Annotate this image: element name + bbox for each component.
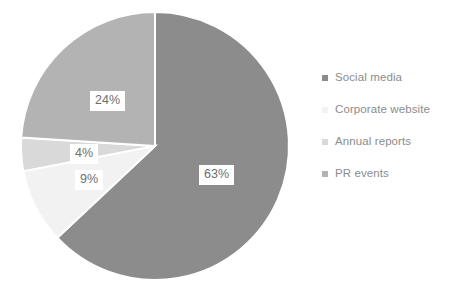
chart-legend: Social mediaCorporate websiteAnnual repo… [322,62,448,190]
legend-swatch-icon [322,75,328,81]
pie-plot-area: 63%9%4%24% [0,0,310,296]
pie-chart: 63%9%4%24% Social mediaCorporate website… [0,0,450,296]
legend-item-label: Corporate website [335,104,430,116]
legend-item-label: Annual reports [335,136,411,148]
slice-value-label: 9% [75,170,103,190]
legend-item-label: Social media [335,72,402,84]
legend-item[interactable]: Corporate website [322,94,448,126]
slice-value-label: 24% [90,91,125,111]
legend-item[interactable]: PR events [322,158,448,190]
legend-swatch-icon [322,171,328,177]
legend-item[interactable]: Annual reports [322,126,448,158]
legend-swatch-icon [322,139,328,145]
legend-item[interactable]: Social media [322,62,448,94]
legend-swatch-icon [322,107,328,113]
pie-slice-group [21,12,289,280]
pie-slice[interactable] [21,12,155,146]
slice-value-label: 63% [199,165,234,185]
slice-value-label: 4% [70,144,98,164]
legend-item-label: PR events [335,168,389,180]
pie-svg [0,0,310,296]
